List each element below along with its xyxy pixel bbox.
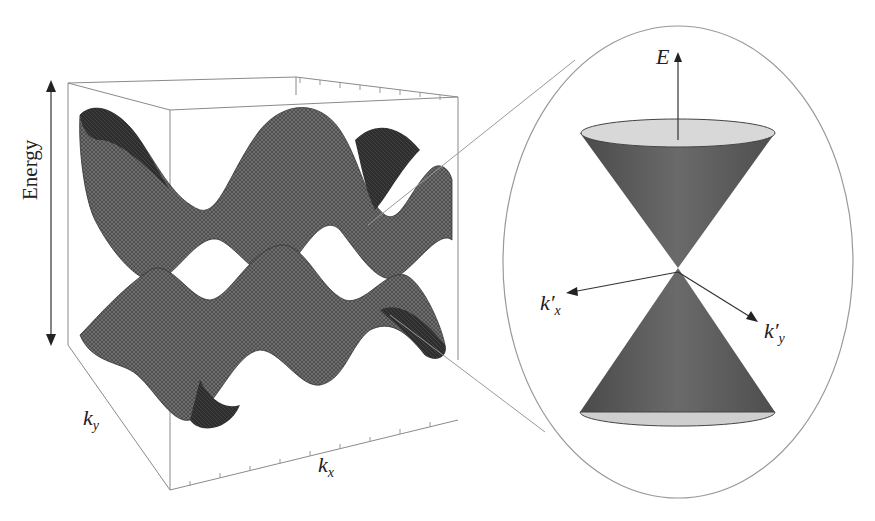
kx-axis-label: kx — [318, 452, 334, 481]
ky-axis-label: ky — [83, 405, 99, 434]
kx-prime-axis — [566, 272, 678, 296]
figure-canvas — [0, 0, 875, 521]
ky-prime-label: k′y — [764, 318, 785, 347]
E-axis-label: E — [656, 44, 669, 70]
kx-prime-label: k′x — [540, 290, 561, 319]
dirac-cone-upper — [580, 119, 775, 268]
dirac-cone-lower — [580, 268, 775, 426]
energy-axis-arrow — [46, 80, 56, 346]
energy-axis-label: Energy — [18, 140, 43, 200]
